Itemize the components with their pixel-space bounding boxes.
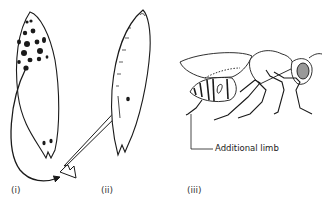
embryo-i: [11, 12, 60, 182]
adult-insect: [180, 51, 322, 120]
panel-label-ii: (ii): [101, 186, 113, 195]
panel-label-i: (i): [11, 186, 21, 195]
callout-leader: [191, 114, 213, 149]
additional-limb-callout: Additional limb: [215, 144, 279, 153]
embryo-ii: [111, 10, 150, 155]
diagram-canvas: [0, 0, 332, 205]
compound-eye: [297, 63, 309, 79]
panel-label-iii: (iii): [187, 186, 202, 195]
